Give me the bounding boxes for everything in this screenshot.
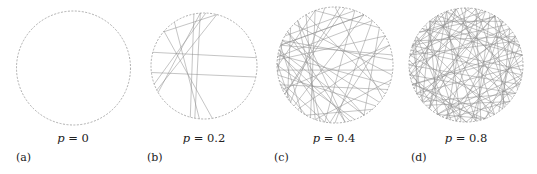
rewired-edge xyxy=(412,50,521,84)
rewired-edge xyxy=(195,13,201,118)
rewired-edge xyxy=(484,80,521,119)
rewired-edge xyxy=(157,15,217,91)
p-value: = 0.8 xyxy=(452,131,487,145)
panel-b-sublabel: (b) xyxy=(147,151,163,164)
panel-d-graph xyxy=(409,8,523,122)
p-value: = 0.2 xyxy=(190,131,225,145)
panel-a-p-label: p = 0 xyxy=(57,131,89,145)
panel-d-p-label: p = 0.8 xyxy=(445,131,488,145)
panel-c-p-label: p = 0.4 xyxy=(313,131,356,145)
ring-lattice xyxy=(17,11,131,125)
panel-c-sublabel: (c) xyxy=(274,151,289,164)
rewired-edge xyxy=(364,28,379,116)
panel-a-sublabel: (a) xyxy=(16,151,31,164)
rewired-edge xyxy=(461,8,495,114)
rewired-edge xyxy=(151,73,255,78)
rewired-edge xyxy=(306,15,315,120)
p-value: = 0 xyxy=(65,131,89,145)
rewired-edge xyxy=(190,14,194,117)
rewired-edge xyxy=(153,52,256,57)
panel-d-sublabel: (d) xyxy=(411,151,427,164)
rewired-edge xyxy=(174,22,199,119)
rewired-edge xyxy=(281,85,307,115)
panel-b-graph xyxy=(151,13,257,119)
rewired-edge xyxy=(429,9,456,109)
rewired-edge xyxy=(298,21,345,123)
rewired-edge xyxy=(306,109,372,115)
rewired-edge xyxy=(335,7,383,98)
figure-canvas xyxy=(0,0,537,174)
panel-c-graph xyxy=(277,7,393,123)
panel-b-p-label: p = 0.2 xyxy=(183,131,226,145)
rewired-edge xyxy=(285,7,340,94)
rewired-edge xyxy=(330,36,385,123)
p-value: = 0.4 xyxy=(320,131,355,145)
rewired-edge xyxy=(163,15,216,32)
panel-a-graph xyxy=(17,11,131,125)
